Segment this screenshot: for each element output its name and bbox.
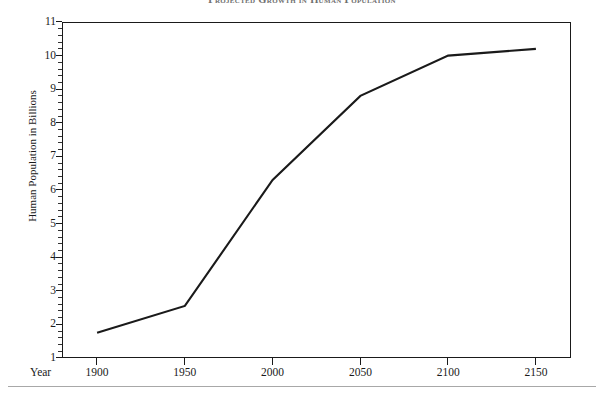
x-axis-tick-label: 1900 [67,366,127,378]
x-axis-major-tick [535,358,536,365]
y-axis-tick-label: 5 [34,218,56,229]
footer-divider [8,386,596,387]
y-axis-tick-label: 10 [34,50,56,61]
y-axis-tick-label: 9 [34,83,56,94]
y-axis-tick-label: 8 [34,117,56,128]
x-axis-tick-label: 1950 [155,366,215,378]
x-axis-major-tick [272,358,273,365]
series-line-human-population [97,49,536,333]
x-axis-major-tick [184,358,185,365]
x-axis-tick-label: 2000 [243,366,303,378]
chart-figure: Projected Growth in Human Population Hum… [0,0,604,397]
x-axis-tick-label: 2050 [330,366,390,378]
x-axis-major-tick [447,358,448,365]
y-axis-tick-label: 3 [34,285,56,296]
y-axis-tick-label: 4 [34,251,56,262]
x-axis-tick-label: 2150 [506,366,566,378]
y-axis-tick-label: 7 [34,150,56,161]
y-axis-tick-label: 2 [34,318,56,329]
x-axis-major-tick [96,358,97,365]
y-axis-tick-label: 6 [34,184,56,195]
y-axis-tick-label: 11 [34,16,56,27]
x-axis-label: Year [30,366,51,378]
chart-title: Projected Growth in Human Population [0,0,604,3]
x-axis-major-tick [360,358,361,365]
x-axis-tick-label: 2100 [418,366,478,378]
data-line-svg [62,22,571,358]
y-axis-tick-label: 1 [34,352,56,363]
